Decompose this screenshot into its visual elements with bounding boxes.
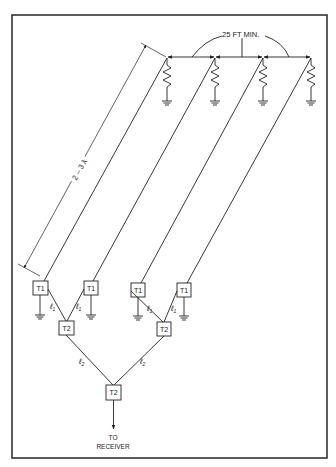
terminations: [162, 58, 316, 105]
t2-label-right: T2: [160, 326, 168, 333]
beverage-antenna-array-diagram: 25 FT MIN.: [0, 0, 336, 467]
svg-text:ℓ1: ℓ1: [170, 304, 177, 314]
t1-label-2: T1: [87, 285, 95, 292]
length-label: 2 – 3 λ: [70, 158, 89, 182]
svg-text:ℓ1: ℓ1: [146, 304, 153, 314]
wire-4: [187, 58, 311, 283]
t1-label-4: T1: [180, 287, 188, 294]
t2-label-output: T2: [109, 389, 117, 396]
wire-1: [44, 58, 167, 281]
t1-label-1: T1: [36, 285, 44, 292]
t2-label-left: T2: [62, 325, 70, 332]
svg-text:ℓ1: ℓ1: [49, 302, 56, 312]
svg-text:ℓ1: ℓ1: [75, 302, 82, 312]
length-dimension: [18, 43, 166, 276]
wire-3: [141, 58, 263, 283]
figure-frame: [12, 15, 327, 458]
spacing-dimension: [168, 36, 310, 57]
svg-text:ℓ2: ℓ2: [78, 357, 85, 367]
t2-transformers: [59, 321, 171, 336]
wire-2: [93, 58, 215, 281]
output-label-line1: TO: [109, 434, 118, 441]
t1-label-3: T1: [134, 287, 142, 294]
svg-text:ℓ2: ℓ2: [139, 357, 146, 367]
spacing-label: 25 FT MIN.: [222, 30, 259, 39]
l1-feeders: [48, 289, 177, 322]
l1-labels: ℓ1 ℓ1 ℓ1 ℓ1: [49, 302, 177, 314]
output-label-line2: RECEIVER: [96, 443, 130, 450]
